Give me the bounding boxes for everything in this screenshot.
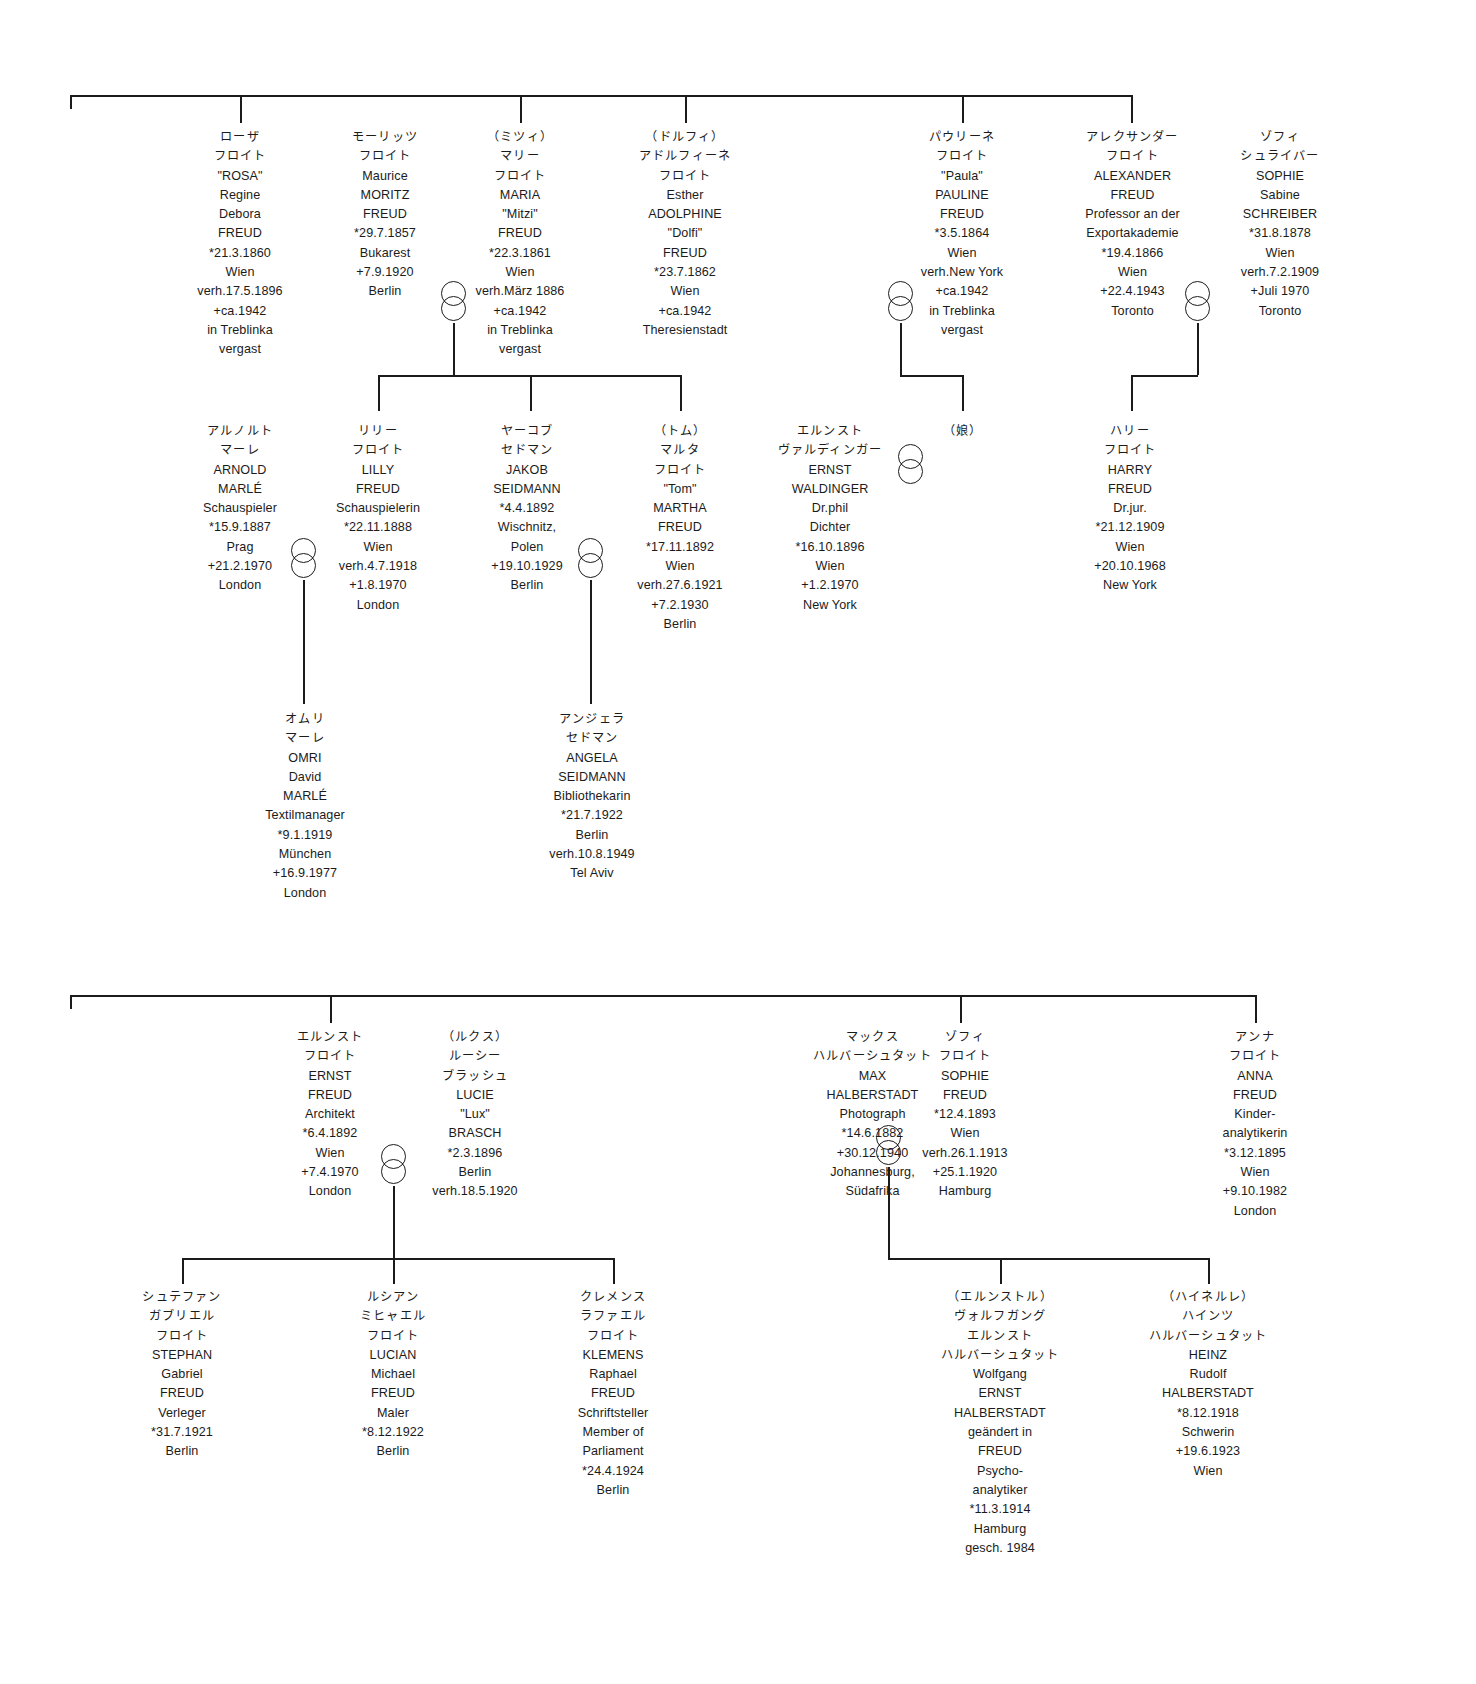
person-card-rosa-freud: ローザ フロイト "ROSA" Regine Debora FREUD *21.… <box>175 128 305 360</box>
sibling-stub-mitzi <box>520 95 522 123</box>
person-card-jakob-seidmann: ヤーコブ セドマン JAKOB SEIDMANN *4.4.1892 Wisch… <box>462 422 592 596</box>
child-stub-wolfgang <box>1000 1258 1002 1284</box>
child-stub-klemens <box>613 1258 615 1284</box>
person-card-maria-mitzi-freud: （ミツィ） マリー フロイト MARIA "Mitzi" FREUD *22.3… <box>455 128 585 360</box>
person-card-lilly-freud: リリー フロイト LILLY FREUD Schauspielerin *22.… <box>313 422 443 615</box>
children-bar-ernst-lucie <box>182 1258 614 1260</box>
sibling-stub-bottom-left-end <box>70 995 72 1009</box>
descent-line-jakob-martha <box>590 580 592 704</box>
person-card-lucie-brasch: （ルクス） ルーシー ブラッシュ LUCIE "Lux" BRASCH *2.3… <box>410 1028 540 1202</box>
sibling-stub-ernst <box>330 995 332 1023</box>
person-card-stephan-gabriel-freud: シュテファン ガブリエル フロイト STEPHAN Gabriel FREUD … <box>117 1288 247 1462</box>
person-card-heinz-rudolf-halberstadt: （ハイネルレ） ハインツ ハルバーシュタット HEINZ Rudolf HALB… <box>1118 1288 1298 1481</box>
descent-line-max-sophie <box>888 1167 890 1258</box>
person-card-lucian-michael-freud: ルシアン ミヒャエル フロイト LUCIAN Michael FREUD Mal… <box>328 1288 458 1462</box>
marriage-symbol-ernst-lucie <box>381 1144 408 1186</box>
person-card-omri-marle: オムリ マーレ OMRI David MARLÉ Textilmanager *… <box>240 710 370 903</box>
person-card-ernst-freud: エルンスト フロイト ERNST FREUD Architekt *6.4.18… <box>265 1028 395 1202</box>
person-card-angela-seidmann: アンジェラ セドマン ANGELA SEIDMANN Bibliothekari… <box>527 710 657 884</box>
family-tree-diagram: ローザ フロイト "ROSA" Regine Debora FREUD *21.… <box>0 0 1476 1684</box>
children-bar-max-sophie <box>888 1258 1208 1260</box>
child-stub-daughter <box>962 375 964 411</box>
descent-line-alexander-sophie <box>1197 323 1199 375</box>
child-stub-martha <box>680 375 682 411</box>
child-stub-stephan <box>182 1258 184 1284</box>
person-card-wolfgang-ernst-halberstadt: （エルンストル） ヴォルフガング エルンスト ハルバーシュタット Wolfgan… <box>910 1288 1090 1558</box>
child-stub-lilly <box>378 375 380 411</box>
person-card-harry-freud: ハリー フロイト HARRY FREUD Dr.jur. *21.12.1909… <box>1065 422 1195 596</box>
child-stub-harry <box>1131 375 1133 411</box>
person-card-daughter: （娘） <box>920 422 1005 441</box>
person-card-anna-freud: アンナ フロイト ANNA FREUD Kinder- analytikerin… <box>1190 1028 1320 1221</box>
ring-lower <box>898 459 923 484</box>
person-card-ernst-waldinger: エルンスト ヴァルディンガー ERNST WALDINGER Dr.phil D… <box>755 422 905 615</box>
ring-lower <box>876 1140 901 1165</box>
sibling-stub-rosa <box>240 95 242 123</box>
person-card-arnold-marle: アルノルト マーレ ARNOLD MARLÉ Schauspieler *15.… <box>175 422 305 596</box>
sibling-bar-bottom <box>70 995 1255 997</box>
sibling-stub-sophie <box>960 995 962 1023</box>
child-stub-lucian <box>393 1258 395 1284</box>
children-bar-pauline <box>900 375 962 377</box>
person-card-martha-tom-freud: （トム） マルタ フロイト "Tom" MARTHA FREUD *17.11.… <box>615 422 745 634</box>
sibling-stub-pauline <box>962 95 964 123</box>
child-stub-heinz <box>1208 1258 1210 1284</box>
marriage-symbol-max-sophie <box>876 1125 903 1167</box>
person-card-adolphine-dolfi-freud: （ドルフィ） アドルフィーネ フロイト Esther ADOLPHINE "Do… <box>620 128 750 340</box>
marriage-symbol-jakob-martha <box>578 538 605 580</box>
ring-lower <box>578 553 603 578</box>
child-stub-jakob-martha-left <box>530 375 532 411</box>
sibling-stub-dolfi <box>685 95 687 123</box>
ring-lower <box>1185 296 1210 321</box>
marriage-symbol-waldinger-daughter <box>898 444 925 486</box>
children-bar-alexander-sophie <box>1131 375 1198 377</box>
person-card-klemens-raphael-freud: クレメンス ラファエル フロイト KLEMENS Raphael FREUD S… <box>548 1288 678 1500</box>
sibling-stub-left-end <box>70 95 72 109</box>
sibling-stub-alexander <box>1131 95 1133 123</box>
ring-lower <box>381 1159 406 1184</box>
sibling-bar-top <box>70 95 1132 97</box>
sibling-stub-anna <box>1255 995 1257 1023</box>
person-card-pauline-freud: パウリーネ フロイト "Paula" PAULINE FREUD *3.5.18… <box>897 128 1027 340</box>
descent-line-ernst-lucie <box>393 1186 395 1258</box>
person-card-sophie-freud: ゾフィ フロイト SOPHIE FREUD *12.4.1893 Wien ve… <box>900 1028 1030 1202</box>
descent-line-arnold-lilly <box>303 580 305 704</box>
person-card-sophie-schreiber: ゾフィ シュライバー SOPHIE Sabine SCHREIBER *31.8… <box>1215 128 1345 321</box>
person-card-moritz-freud: モーリッツ フロイト Maurice MORITZ FREUD *29.7.18… <box>320 128 450 302</box>
marriage-symbol-alexander-sophie <box>1185 281 1212 323</box>
